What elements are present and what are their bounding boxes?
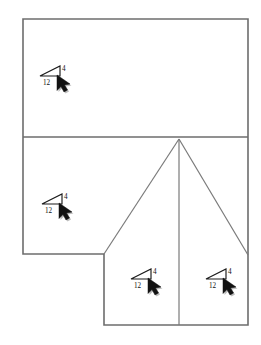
slope-rise-label: 4 <box>228 268 232 276</box>
slope-run-label: 12 <box>43 79 51 87</box>
slope-rise-label: 4 <box>62 65 66 73</box>
slope-run-label: 12 <box>209 282 217 290</box>
roof-plan-diagram: 4 12 4 12 4 12 4 12 <box>0 0 261 345</box>
slope-rise-label: 4 <box>153 268 157 276</box>
slope-run-label: 12 <box>45 207 53 215</box>
slope-run-label: 12 <box>134 282 142 290</box>
slope-rise-label: 4 <box>64 193 68 201</box>
